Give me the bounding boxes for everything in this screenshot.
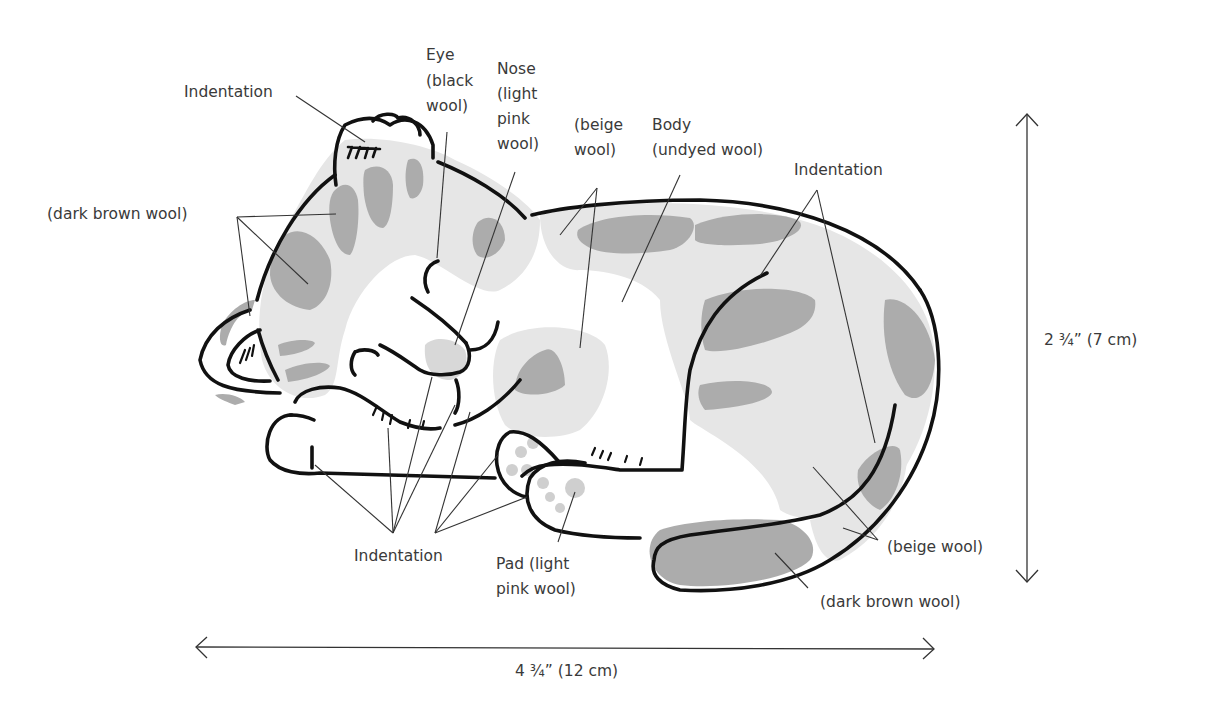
ear-tuft-outline (373, 114, 420, 135)
label-body: Body (undyed wool) (652, 116, 763, 159)
haunch-fur-strokes (592, 448, 642, 465)
closed-eye (425, 261, 438, 292)
label-indentation-bottom: Indentation (354, 547, 443, 565)
cat-illustration (200, 114, 939, 590)
label-eye: Eye (black wool) (426, 46, 478, 115)
height-label: 2 ¾” (7 cm) (1044, 331, 1137, 349)
label-dark-brown-bottom: (dark brown wool) (820, 593, 960, 611)
front-paw-indent (290, 415, 314, 468)
label-indentation-right: Indentation (794, 161, 883, 179)
height-dimension: 2 ¾” (7 cm) (1016, 114, 1137, 582)
sleeping-cat-diagram: Indentation Eye (black wool) Nose (light… (0, 0, 1208, 721)
width-label: 4 ¾” (12 cm) (515, 662, 618, 680)
label-beige-top: (beige wool) (574, 116, 628, 159)
chin-beige-strip (215, 394, 245, 405)
width-dimension: 4 ¾” (12 cm) (196, 637, 934, 680)
label-beige-right: (beige wool) (887, 538, 983, 556)
hind-paw-front (527, 461, 640, 538)
mouth-right (470, 322, 498, 350)
label-indentation-top: Indentation (184, 83, 273, 101)
cheek-lower (351, 350, 378, 375)
label-nose: Nose (light pink wool) (497, 60, 542, 153)
label-dark-brown-left: (dark brown wool) (47, 205, 187, 223)
chin-lower (455, 380, 459, 413)
label-pad: Pad (light pink wool) (496, 555, 576, 598)
ear-hair-strokes (240, 345, 254, 363)
